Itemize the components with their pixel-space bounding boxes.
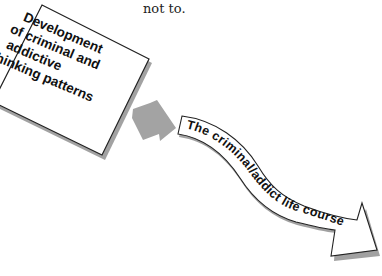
target-banner: The criminal/addict life course <box>178 116 380 261</box>
target-banner-label-path: The criminal/addict life course <box>185 118 346 229</box>
diagram: Development of criminal and addictive th… <box>0 0 382 276</box>
source-box: Development of criminal and addictive th… <box>0 4 152 160</box>
arrow-down-right-icon <box>132 100 176 141</box>
target-banner-label: The criminal/addict life course <box>185 118 346 229</box>
page: not to. Development of criminal and addi… <box>0 0 382 276</box>
